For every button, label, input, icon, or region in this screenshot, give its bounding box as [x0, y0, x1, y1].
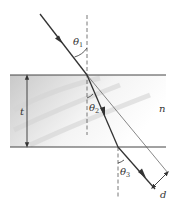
- theta1-label: θ1: [73, 36, 83, 49]
- incident-ray-arrow-icon: [55, 36, 63, 44]
- slab-region: [10, 75, 166, 147]
- theta3-label: θ3: [120, 166, 130, 179]
- refraction-slab-diagram: θ1 θ2 θ3 t n d: [0, 0, 179, 204]
- theta3-arc: [118, 160, 124, 163]
- displacement-arrow: [153, 173, 167, 187]
- theta1-arc: [75, 48, 88, 57]
- refractive-index-label: n: [159, 103, 165, 114]
- emergent-ray-arrow-icon: [138, 169, 146, 179]
- displacement-label: d: [160, 189, 166, 200]
